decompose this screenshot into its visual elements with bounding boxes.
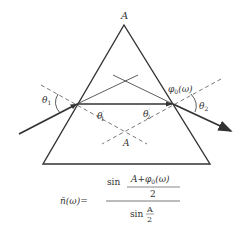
apex-lower-label: A	[122, 138, 130, 148]
theta2-arc	[191, 94, 196, 112]
refractive-index-formula: n̄(ω)= sin A+φ0(ω) 2 sin A 2	[60, 174, 180, 224]
theta1-label: θ1	[42, 95, 51, 106]
theta2-prime-label: θ′2	[143, 107, 151, 120]
formula-num-sin: sin	[107, 177, 120, 187]
formula-den-bottom: 2	[147, 215, 152, 224]
theta2-label: θ2	[199, 101, 208, 112]
formula-den-top: A	[146, 205, 153, 214]
formula-num-bottom: 2	[150, 189, 156, 199]
apex-label: A	[120, 10, 128, 21]
formula-den-sin: sin	[130, 209, 143, 219]
right-normal-dashed	[102, 79, 221, 144]
theta1-arc	[55, 94, 60, 113]
formula-lhs: n̄(ω)=	[60, 196, 88, 206]
phi-label: φ0(ω)	[168, 84, 193, 95]
theta1-prime-label: θ′1	[97, 109, 105, 122]
formula-num-top: A+φ0(ω)	[130, 174, 170, 185]
prism-refraction-diagram: A A θ1 θ2 θ′1 θ′2 φ0(ω) n̄(ω)= sin A+φ0(…	[0, 0, 244, 235]
incident-ray	[19, 104, 77, 134]
